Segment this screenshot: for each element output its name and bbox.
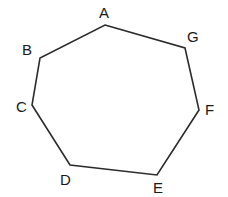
vertex-label-e: E (153, 180, 163, 195)
vertex-label-d: D (60, 172, 71, 187)
vertex-label-b: B (22, 42, 32, 57)
heptagon-outline (32, 25, 199, 175)
vertex-label-g: G (187, 29, 199, 44)
vertex-label-a: A (99, 5, 109, 20)
figure-canvas: A G F E D C B (0, 0, 228, 197)
vertex-label-c: C (16, 99, 27, 114)
vertex-label-f: F (205, 102, 214, 117)
